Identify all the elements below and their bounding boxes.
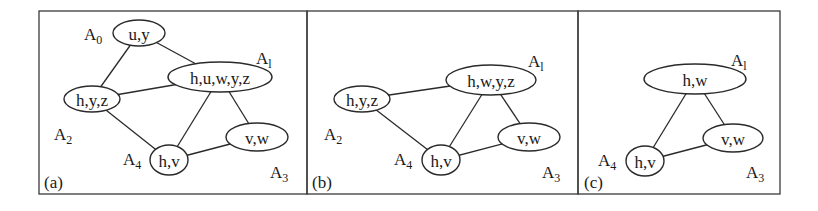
node-variables: h,w,y,z <box>467 72 515 91</box>
node-name-label: A3 <box>270 163 288 185</box>
panel-label: (c) <box>584 173 603 192</box>
node-A2: h,y,zA2 <box>54 86 120 147</box>
node-variables: u,y <box>128 25 150 44</box>
node-A3: v,wA3 <box>498 123 560 185</box>
node-name-label: A3 <box>746 163 764 185</box>
panel-label: (a) <box>44 173 63 192</box>
node-A1: h,u,w,y,zAl <box>168 49 272 92</box>
node-A1: h,w,y,zAl <box>446 52 544 95</box>
node-A2: h,y,zA2 <box>324 86 390 147</box>
node-name-label: Al <box>731 51 747 73</box>
node-variables: h,u,w,y,z <box>190 69 251 88</box>
node-A3: v,wA3 <box>226 123 288 185</box>
node-A4: h,vA4 <box>394 145 460 175</box>
node-name-label: A2 <box>54 125 72 147</box>
node-variables: v,w <box>721 130 746 149</box>
node-variables: h,v <box>430 152 452 171</box>
node-A4: h,vA4 <box>598 146 664 176</box>
node-variables: h,w <box>682 71 708 90</box>
node-name-label: A3 <box>542 163 560 185</box>
node-name-label: A4 <box>123 150 141 172</box>
panel-label: (b) <box>312 173 332 192</box>
node-variables: h,y,z <box>76 91 108 110</box>
node-variables: h,y,z <box>346 91 378 110</box>
node-name-label: A0 <box>84 25 102 47</box>
panel-a: u,yA0h,u,w,y,zAlh,y,zA2v,wA3h,vA4(a) <box>39 11 307 194</box>
panel-b: h,w,y,zAlh,y,zA2v,wA3h,vA4(b) <box>307 11 578 194</box>
node-A1: h,wAl <box>644 51 747 94</box>
node-name-label: A4 <box>394 150 412 172</box>
panel-c: h,wAlv,wA3h,vA4(c) <box>578 11 780 194</box>
node-name-label: A2 <box>324 125 342 147</box>
node-name-label: Al <box>528 52 544 74</box>
node-name-label: Al <box>256 49 272 71</box>
node-variables: v,w <box>517 129 542 148</box>
node-A4: h,vA4 <box>123 145 188 175</box>
node-variables: h,v <box>634 153 656 172</box>
node-A0: u,yA0 <box>84 20 165 47</box>
node-variables: v,w <box>245 129 270 148</box>
node-variables: h,v <box>158 152 180 171</box>
node-name-label: A4 <box>598 151 616 173</box>
node-A3: v,wA3 <box>703 124 764 185</box>
junction-graph-figure: u,yA0h,u,w,y,zAlh,y,zA2v,wA3h,vA4(a)h,w,… <box>0 0 818 211</box>
